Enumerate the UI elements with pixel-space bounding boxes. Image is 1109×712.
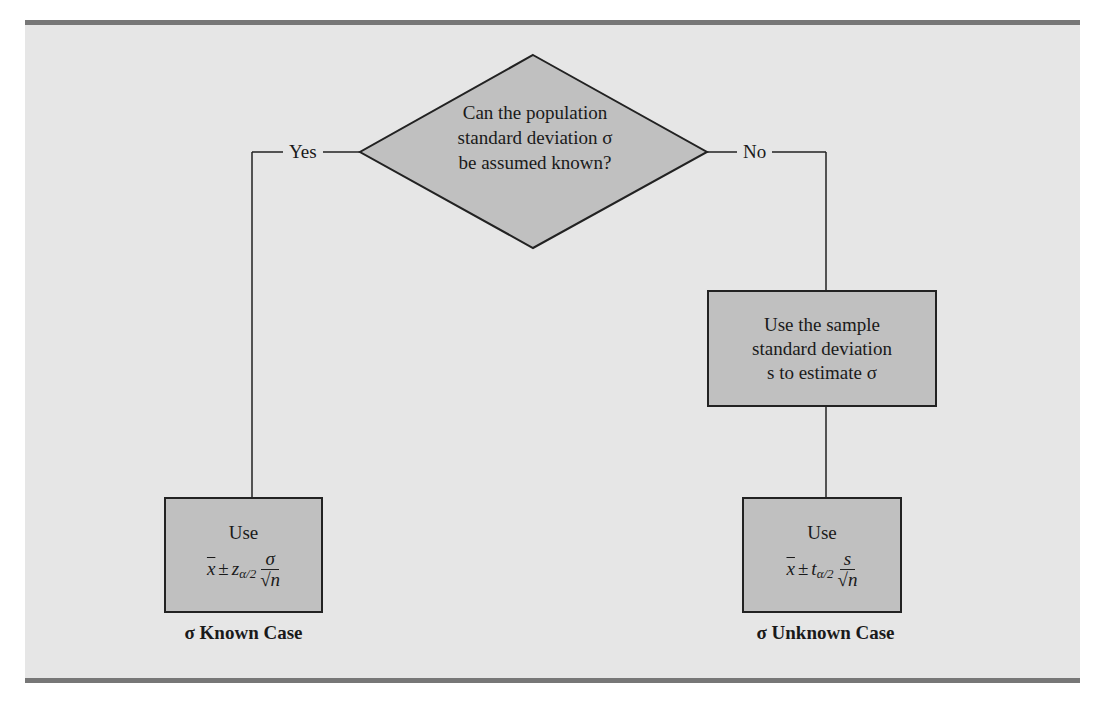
unknown-case-box: Use x ± t α/2 s √n <box>742 497 902 613</box>
numerator: s <box>840 549 855 570</box>
process-line-1: Use the sample <box>764 313 880 337</box>
fraction: s √n <box>838 549 858 590</box>
plus-minus-symbol: ± <box>798 557 808 581</box>
numerator: σ <box>261 549 278 570</box>
no-label: No <box>737 141 772 163</box>
estimate-sigma-box: Use the sample standard deviation s to e… <box>707 290 937 407</box>
yes-label: Yes <box>283 141 323 163</box>
unknown-formula: x ± t α/2 s √n <box>786 549 857 590</box>
decision-text: Can the population standard deviation σ … <box>400 100 670 175</box>
process-line-2: standard deviation <box>752 337 892 361</box>
xbar-symbol: x <box>207 557 215 581</box>
known-case-caption: σ Known Case <box>130 622 357 644</box>
fraction: σ √n <box>260 549 280 590</box>
z-symbol: z <box>232 557 239 581</box>
denominator: √n <box>838 570 858 590</box>
alpha-subscript: α/2 <box>817 562 834 586</box>
known-case-box: Use x ± z α/2 σ √n <box>164 497 323 613</box>
known-formula: x ± z α/2 σ √n <box>207 549 280 590</box>
alpha-subscript: α/2 <box>239 562 256 586</box>
unknown-case-caption: σ Unknown Case <box>712 622 939 644</box>
xbar-symbol: x <box>786 557 794 581</box>
process-line-3: s to estimate σ <box>767 361 877 385</box>
known-use-label: Use <box>229 521 259 545</box>
decision-line-1: Can the population <box>400 100 670 125</box>
denominator: √n <box>260 570 280 590</box>
decision-line-3: be assumed known? <box>400 150 670 175</box>
unknown-use-label: Use <box>807 521 837 545</box>
decision-line-2: standard deviation σ <box>400 125 670 150</box>
plus-minus-symbol: ± <box>218 557 228 581</box>
